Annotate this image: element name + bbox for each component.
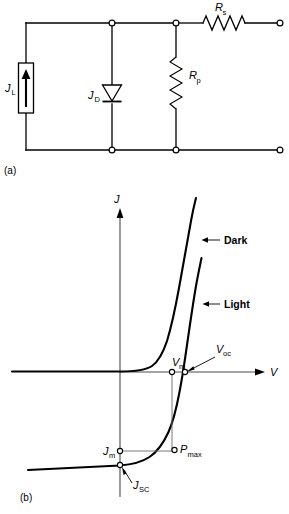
panel-b-chart: J V V m V oc J m J SC P	[12, 193, 279, 503]
panel-a-tag: (a)	[4, 165, 16, 176]
dark-leader-arrowhead-icon	[202, 237, 209, 242]
jsc-point-marker	[117, 462, 122, 467]
light-leader-arrowhead-icon	[203, 301, 210, 306]
light-curve-label: Light	[224, 298, 250, 310]
series-resistor-zigzag-icon	[203, 16, 245, 30]
series-resistor-label-sub: s	[223, 8, 227, 17]
y-axis-label: J	[113, 193, 120, 205]
voc-label-sub: oc	[223, 349, 231, 358]
y-axis-arrowhead-icon	[117, 208, 124, 218]
jsc-label-sub: SC	[139, 485, 150, 494]
figure-svg: J L J D R p R s (a) J V	[0, 0, 289, 514]
voc-leader-arrowhead-icon	[187, 366, 195, 372]
jm-label: J	[102, 445, 109, 457]
jm-point-marker	[117, 448, 122, 453]
diode-triangle-icon	[103, 85, 122, 101]
vm-label-sub: m	[179, 362, 185, 371]
dark-curve-label: Dark	[224, 234, 248, 246]
node-top-diode	[109, 20, 115, 26]
dark-curve	[12, 198, 196, 372]
figure-container: J L J D R p R s (a) J V	[0, 0, 289, 514]
output-terminal-top	[277, 20, 283, 26]
shunt-resistor-zigzag-icon	[170, 57, 182, 109]
diode-label: J	[87, 89, 94, 101]
node-bottom-diode	[109, 147, 115, 153]
node-bottom-shunt	[173, 147, 179, 153]
panel-b-tag: (b)	[20, 492, 32, 503]
pmax-point-marker	[172, 447, 177, 452]
panel-a-circuit: J L J D R p R s (a)	[4, 1, 283, 176]
shunt-resistor-label-sub: p	[197, 76, 201, 85]
diode-label-sub: D	[95, 95, 101, 104]
vm-point-marker	[169, 369, 174, 374]
jm-label-sub: m	[109, 451, 115, 460]
current-source-label-sub: L	[12, 88, 16, 97]
current-source-label: J	[4, 82, 11, 94]
node-top-shunt	[173, 20, 179, 26]
pmax-label-sub: max	[188, 450, 202, 459]
x-axis-arrowhead-icon	[255, 369, 265, 376]
x-axis-label: V	[270, 366, 279, 378]
output-terminal-bottom	[277, 147, 283, 153]
jsc-label: J	[132, 479, 139, 491]
